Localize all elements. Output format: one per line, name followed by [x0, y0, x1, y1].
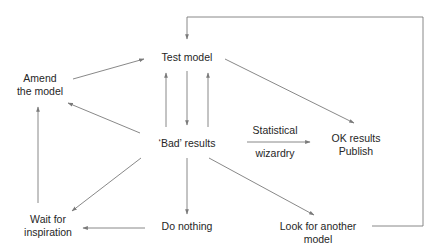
node-do-nothing-label: Do nothing — [162, 220, 213, 233]
edge-look-to-test-loop — [187, 17, 423, 226]
edge-bad-to-look — [209, 158, 314, 215]
node-wait-inspiration-line1: Wait for — [24, 213, 72, 226]
node-ok-results-line1: OK results — [331, 132, 380, 145]
node-test-model-label: Test model — [162, 51, 213, 64]
node-amend-model-line2: the model — [17, 85, 63, 98]
node-bad-results: ‘Bad’ results — [159, 137, 216, 150]
node-amend-model: Amend the model — [17, 72, 63, 98]
node-ok-results-line2: Publish — [331, 145, 380, 158]
edge-bad-to-amend — [68, 103, 140, 133]
node-test-model: Test model — [162, 51, 213, 64]
node-bad-results-label: ‘Bad’ results — [159, 137, 216, 150]
edge-label-wizardry: wizardry — [255, 147, 294, 160]
edge-label-statistical: Statistical — [253, 124, 298, 137]
node-look-another-line2: model — [280, 233, 356, 246]
node-wait-inspiration-line2: inspiration — [24, 226, 72, 239]
node-do-nothing: Do nothing — [162, 220, 213, 233]
node-look-another: Look for another model — [280, 220, 356, 246]
node-ok-results: OK results Publish — [331, 132, 380, 158]
node-wait-inspiration: Wait for inspiration — [24, 213, 72, 239]
edge-amend-to-test — [73, 59, 144, 79]
edge-test-to-ok — [225, 59, 354, 123]
edge-bad-to-wait — [72, 158, 141, 211]
node-look-another-line1: Look for another — [280, 220, 356, 233]
node-amend-model-line1: Amend — [17, 72, 63, 85]
